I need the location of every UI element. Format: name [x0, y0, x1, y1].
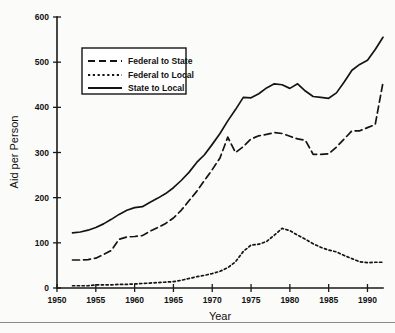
x-tick-label: 1965 — [164, 295, 183, 305]
y-tick-label: 100 — [35, 238, 49, 248]
legend-label-0: Federal to State — [128, 56, 193, 66]
chart-figure: 0100200300400500600 19501955196019651970… — [0, 0, 395, 333]
y-tick-label: 0 — [44, 283, 49, 293]
x-axis-title: Year — [209, 310, 232, 322]
x-tick-label: 1950 — [48, 295, 67, 305]
x-tick-label: 1975 — [242, 295, 261, 305]
x-tick-label: 1985 — [319, 295, 338, 305]
chart-legend: Federal to StateFederal to LocalState to… — [82, 48, 194, 94]
y-tick-label: 600 — [35, 12, 49, 22]
legend-label-1: Federal to Local — [128, 70, 194, 80]
legend-label-2: State to Local — [128, 83, 184, 93]
y-tick-label: 200 — [35, 193, 49, 203]
y-axis-title: Aid per Person — [8, 116, 20, 189]
y-tick-label: 300 — [35, 148, 49, 158]
page-divider-rule — [0, 322, 395, 323]
x-tick-label: 1980 — [280, 295, 299, 305]
series-line-federal-to-state — [73, 82, 383, 260]
series-line-federal-to-local — [73, 228, 383, 285]
x-tick-label: 1960 — [125, 295, 144, 305]
legend-items: Federal to StateFederal to LocalState to… — [88, 56, 194, 93]
y-tick-label: 500 — [35, 57, 49, 67]
x-tick-label: 1970 — [203, 295, 222, 305]
x-tick-label: 1955 — [86, 295, 105, 305]
line-chart: 0100200300400500600 19501955196019651970… — [0, 0, 395, 333]
x-tick-group: 195019551960196519701975198019851990 — [48, 284, 378, 305]
x-tick-label: 1990 — [358, 295, 377, 305]
y-tick-label: 400 — [35, 102, 49, 112]
